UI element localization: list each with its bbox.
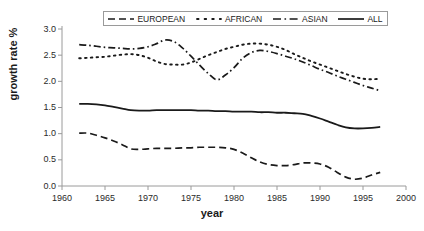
legend-label: EUROPEAN — [137, 14, 185, 24]
legend: EUROPEAN AFRICAN ASIAN ALL — [103, 11, 388, 26]
growth-rate-line-chart: growth rate % 0.0 0.5 1.0 1.5 2.0 2.5 3.… — [0, 0, 424, 231]
plot-area — [0, 0, 424, 231]
legend-swatch-dotted — [196, 15, 222, 23]
legend-swatch-dashdot — [273, 15, 299, 23]
legend-item-all[interactable]: ALL — [338, 14, 382, 24]
series-line-european — [79, 133, 380, 179]
legend-label: ASIAN — [302, 14, 328, 24]
series-line-all — [79, 104, 380, 129]
legend-item-european[interactable]: EUROPEAN — [108, 14, 185, 24]
series-lines — [79, 40, 380, 179]
tick-marks — [58, 29, 406, 190]
legend-label: ALL — [367, 14, 382, 24]
legend-label: AFRICAN — [225, 14, 262, 24]
axis-lines — [62, 26, 406, 186]
x-axis-title: year — [0, 207, 424, 219]
series-line-asian — [79, 40, 380, 91]
legend-swatch-solid — [338, 15, 364, 23]
legend-swatch-dashed — [108, 15, 134, 23]
legend-item-asian[interactable]: ASIAN — [273, 14, 328, 24]
legend-item-african[interactable]: AFRICAN — [196, 14, 262, 24]
